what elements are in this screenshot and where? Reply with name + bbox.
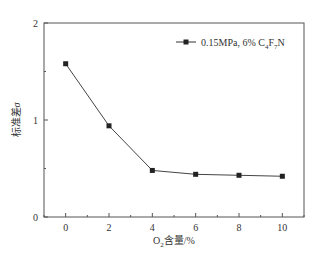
x-tick-label: 10 xyxy=(277,222,287,233)
plot-frame xyxy=(44,23,304,217)
y-axis-title: 标准差σ xyxy=(10,101,22,137)
data-point xyxy=(193,172,198,177)
y-tick-label: 0 xyxy=(33,212,38,223)
legend: 0.15MPa, 6% C4F7N xyxy=(176,37,285,51)
x-tick-label: 2 xyxy=(107,222,112,233)
x-tick-label: 8 xyxy=(237,222,242,233)
x-axis-title: O2含量/% xyxy=(153,234,195,249)
x-tick-label: 0 xyxy=(63,222,68,233)
data-point xyxy=(150,168,155,173)
legend-label: 0.15MPa, 6% C4F7N xyxy=(201,37,285,51)
data-point xyxy=(280,174,285,179)
y-tick-label: 1 xyxy=(33,115,38,126)
chart: 0246810 012 0.15MPa, 6% C4F7N O2含量/% 标准差… xyxy=(0,0,318,259)
y-axis-ticks: 012 xyxy=(33,18,48,223)
x-tick-label: 4 xyxy=(150,222,155,233)
data-point xyxy=(237,173,242,178)
x-tick-label: 6 xyxy=(193,222,198,233)
data-point xyxy=(107,123,112,128)
y-tick-label: 2 xyxy=(33,18,38,29)
data-point xyxy=(63,61,68,66)
x-axis-ticks: 0246810 xyxy=(44,213,304,233)
data-series xyxy=(63,61,285,179)
